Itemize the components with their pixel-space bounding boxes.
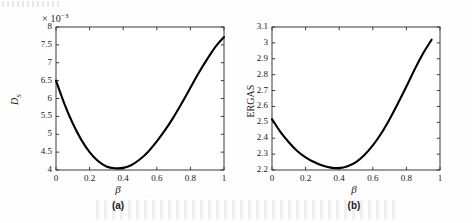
y-tick-label: 2.5 [238, 116, 268, 126]
y-tick-label: 2.8 [238, 69, 268, 79]
y-tick-label: 2.4 [238, 132, 268, 142]
y-tick-label: 4 [22, 164, 52, 174]
x-tick-label: 0.6 [143, 173, 171, 183]
y-tick-label: 2.9 [238, 53, 268, 63]
chart-panel-a: × 10−3 DS β (a) 00.20.40.60.8144.555.566… [0, 0, 236, 223]
x-tick-label: 0.8 [176, 173, 204, 183]
x-tick-label: 0 [258, 173, 286, 183]
y-tick-label: 8 [22, 21, 52, 31]
y-tick-label: 3 [238, 37, 268, 47]
y-tick-label: 6 [22, 93, 52, 103]
x-tick-label: 0.6 [359, 173, 387, 183]
x-axis-title-a: β [0, 183, 236, 195]
panel-caption-a: (a) [0, 200, 236, 211]
chart-panel-b: ERGAS β (b) 00.20.40.60.812.22.32.42.52.… [236, 0, 472, 223]
y-axis-title-b: ERGAS [245, 74, 256, 118]
y-tick-label: 2.7 [238, 85, 268, 95]
y-tick-label: 2.6 [238, 100, 268, 110]
y-tick-label: 3.1 [238, 21, 268, 31]
y-tick-label: 2.3 [238, 148, 268, 158]
x-tick-label: 1 [210, 173, 238, 183]
y-tick-label: 4.5 [22, 146, 52, 156]
x-tick-label: 0.2 [292, 173, 320, 183]
x-tick-label: 0.2 [76, 173, 104, 183]
y-tick-label: 7.5 [22, 39, 52, 49]
panel-caption-b: (b) [236, 200, 472, 211]
x-tick-label: 1 [426, 173, 454, 183]
x-tick-label: 0 [42, 173, 70, 183]
y-tick-label: 5 [22, 128, 52, 138]
y-tick-label: 6.5 [22, 75, 52, 85]
y-axis-title-a: DS [9, 81, 23, 105]
x-tick-label: 0.4 [325, 173, 353, 183]
figure-page: × 10−3 DS β (a) 00.20.40.60.8144.555.566… [0, 0, 472, 223]
y-tick-label: 5.5 [22, 110, 52, 120]
y-tick-label: 7 [22, 57, 52, 67]
x-tick-label: 0.8 [392, 173, 420, 183]
x-axis-title-b: β [236, 183, 472, 195]
y-tick-label: 2.2 [238, 164, 268, 174]
x-tick-label: 0.4 [109, 173, 137, 183]
